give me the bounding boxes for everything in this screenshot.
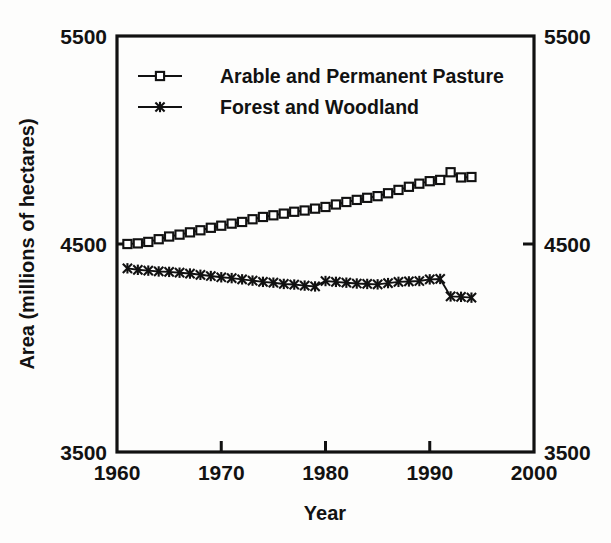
x-tick-label-1980: 1980 <box>302 461 349 484</box>
y-tick-label-right-5500: 5500 <box>544 25 591 48</box>
series-1-point-1981 <box>332 200 340 208</box>
series-1-point-1975 <box>269 211 277 219</box>
series-1-point-1990 <box>426 177 434 185</box>
series-1-point-1992 <box>447 168 455 176</box>
y-axis-tick-labels-right: 350045005500 <box>544 25 591 464</box>
legend-item-2[interactable]: Forest and Woodland <box>138 96 419 118</box>
y-axis-title: Area (millions of hectares) <box>16 118 38 369</box>
series-1-point-1994 <box>467 173 475 181</box>
x-tick-label-1970: 1970 <box>198 461 245 484</box>
series-1-point-1967 <box>186 228 194 236</box>
series-1-point-1961 <box>123 240 131 248</box>
x-axis-title: Year <box>304 502 346 524</box>
series-1-point-1989 <box>415 180 423 188</box>
x-tick-label-1990: 1990 <box>406 461 453 484</box>
figure-container: 350045005500 350045005500 19601970198019… <box>0 0 611 543</box>
series-1-point-1962 <box>134 239 142 247</box>
series-1-point-1963 <box>144 238 152 246</box>
line-chart: 350045005500 350045005500 19601970198019… <box>0 0 611 543</box>
series-1-point-1978 <box>301 206 309 214</box>
legend-item-1[interactable]: Arable and Permanent Pasture <box>138 65 504 87</box>
series-1-point-1979 <box>311 205 319 213</box>
series-1-point-1985 <box>374 192 382 200</box>
series-1-point-1969 <box>207 224 215 232</box>
series-1-point-1972 <box>238 218 246 226</box>
series-1-point-1976 <box>280 210 288 218</box>
y-tick-label-left-4500: 4500 <box>60 233 107 256</box>
series-1-point-1973 <box>248 215 256 223</box>
legend-marker-1 <box>156 72 164 80</box>
x-tick-label-1960: 1960 <box>94 461 141 484</box>
series-1-point-1966 <box>175 231 183 239</box>
series-1-point-1984 <box>363 194 371 202</box>
y-tick-label-left-5500: 5500 <box>60 25 107 48</box>
series-layer <box>123 168 476 303</box>
series-1-point-1983 <box>353 196 361 204</box>
series-1-point-1982 <box>342 198 350 206</box>
chart-legend: Arable and Permanent PastureForest and W… <box>138 65 504 118</box>
series-1-point-1968 <box>196 226 204 234</box>
series-1-point-1991 <box>436 176 444 184</box>
series-1-point-1977 <box>290 208 298 216</box>
series-1-point-1987 <box>394 186 402 194</box>
series-2 <box>123 263 476 303</box>
series-1 <box>123 168 475 248</box>
series-1-point-1986 <box>384 189 392 197</box>
series-1-point-1964 <box>155 235 163 243</box>
y-tick-label-right-4500: 4500 <box>544 233 591 256</box>
series-1-point-1988 <box>405 183 413 191</box>
x-axis-tick-labels: 19601970198019902000 <box>94 461 558 484</box>
series-1-point-1970 <box>217 222 225 230</box>
series-1-point-1980 <box>321 203 329 211</box>
legend-label-2: Forest and Woodland <box>220 96 419 118</box>
series-1-point-1971 <box>228 220 236 228</box>
series-1-point-1965 <box>165 232 173 240</box>
series-1-point-1974 <box>259 213 267 221</box>
x-tick-label-2000: 2000 <box>511 461 558 484</box>
series-1-point-1993 <box>457 173 465 181</box>
y-axis-tick-labels-left: 350045005500 <box>60 25 107 464</box>
legend-label-1: Arable and Permanent Pasture <box>220 65 504 87</box>
